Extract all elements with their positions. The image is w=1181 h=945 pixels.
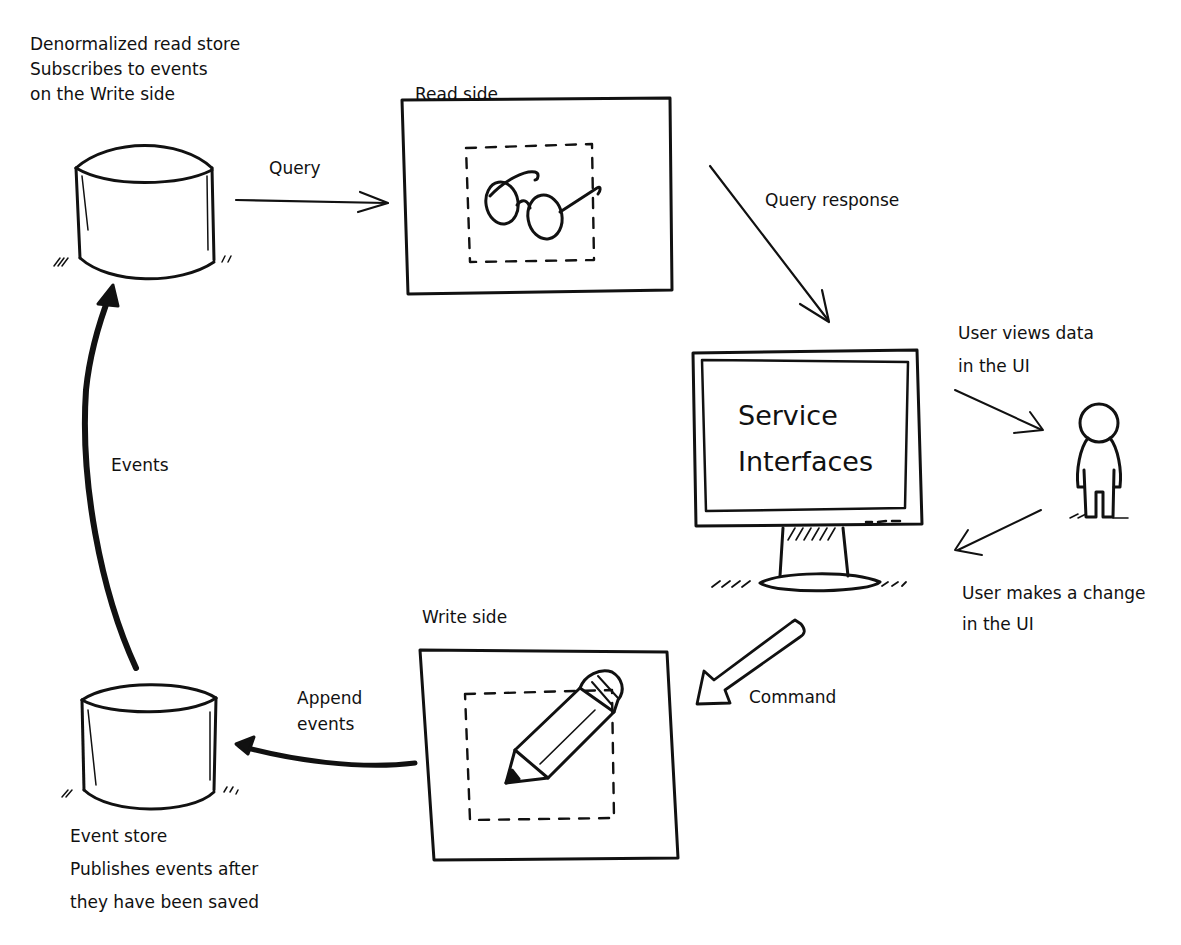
query-response-label: Query response xyxy=(765,188,899,213)
pencil-icon xyxy=(506,671,622,783)
read-store-cylinder xyxy=(54,146,231,279)
person-icon xyxy=(1070,404,1128,518)
service-interfaces-line: Service xyxy=(738,393,873,439)
service-interfaces-line: Interfaces xyxy=(738,439,873,485)
append-events-line: events xyxy=(297,711,362,737)
append-events-arrow xyxy=(236,737,415,765)
event-store-cylinder xyxy=(62,685,238,809)
event-store-caption-line: Event store xyxy=(70,820,259,853)
user-views-line: in the UI xyxy=(958,350,1094,383)
events-label: Events xyxy=(111,453,169,478)
user-changes-line: User makes a change xyxy=(962,578,1145,609)
append-events-line: Append xyxy=(297,685,362,711)
user-views-label: User views data in the UI xyxy=(958,317,1094,383)
diagram-canvas xyxy=(0,0,1181,945)
read-store-caption-line: Denormalized read store xyxy=(30,32,240,57)
user-changes-line: in the UI xyxy=(962,609,1145,640)
read-store-caption-line: on the Write side xyxy=(30,82,240,107)
append-events-label: Append events xyxy=(297,685,362,737)
user-views-arrow xyxy=(955,390,1043,433)
read-store-caption: Denormalized read store Subscribes to ev… xyxy=(30,32,240,107)
user-changes-arrow xyxy=(955,510,1041,555)
event-store-caption: Event store Publishes events after they … xyxy=(70,820,259,919)
glasses-icon xyxy=(483,172,601,242)
event-store-caption-line: they have been saved xyxy=(70,886,259,919)
read-side-title: Read side xyxy=(415,82,498,107)
user-views-line: User views data xyxy=(958,317,1094,350)
query-label: Query xyxy=(269,156,321,181)
event-store-caption-line: Publishes events after xyxy=(70,853,259,886)
user-changes-label: User makes a change in the UI xyxy=(962,578,1145,640)
write-side-title: Write side xyxy=(422,605,507,630)
read-store-caption-line: Subscribes to events xyxy=(30,57,240,82)
query-arrow xyxy=(236,192,388,212)
command-label: Command xyxy=(749,685,836,710)
service-interfaces-label: Service Interfaces xyxy=(738,393,873,485)
